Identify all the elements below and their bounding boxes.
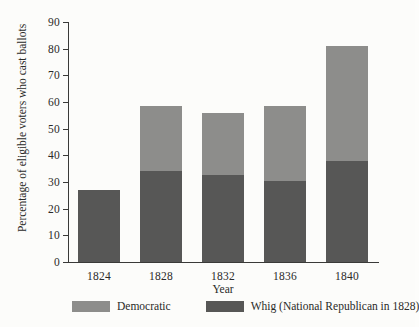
x-axis-title: Year [212,283,233,295]
bar-group[interactable] [78,22,120,262]
y-tick-mark [63,182,68,183]
y-axis-title: Percentage of eligible voters who cast b… [16,3,28,253]
legend-swatch [206,301,244,312]
y-tick-label: 70 [48,69,60,81]
bar-segment-whig[interactable] [326,161,368,262]
bar-segment-democratic[interactable] [140,106,182,171]
y-tick-mark [63,235,68,236]
y-tick-mark [63,155,68,156]
chart-legend: DemocraticWhig (National Republican in 1… [72,300,419,312]
y-tick-label: 40 [48,149,60,161]
x-axis-line [68,262,379,263]
legend-swatch [72,301,110,312]
x-tick-label: 1832 [211,270,235,282]
y-tick-label: 20 [48,203,60,215]
y-tick-label: 80 [48,43,60,55]
y-tick: 40 [68,155,69,156]
x-tick-label: 1840 [335,270,359,282]
x-tick-label: 1836 [273,270,297,282]
y-tick: 50 [68,129,69,130]
legend-item[interactable]: Democratic [72,300,171,312]
plot-area: 0102030405060708090 [68,22,378,262]
y-tick-mark [63,49,68,50]
y-tick-mark [63,102,68,103]
y-tick: 70 [68,75,69,76]
bar-segment-whig[interactable] [78,190,120,262]
bar-segment-whig[interactable] [202,175,244,262]
y-tick: 90 [68,22,69,23]
bar-group[interactable] [140,22,182,262]
bar-group[interactable] [264,22,306,262]
y-tick-mark [63,22,68,23]
bar-segment-whig[interactable] [140,171,182,262]
y-tick: 80 [68,49,69,50]
bar-group[interactable] [202,22,244,262]
y-tick-label: 30 [48,176,60,188]
y-tick-mark [63,262,68,263]
y-tick-label: 0 [54,256,60,268]
y-tick-label: 90 [48,16,60,28]
bar-group[interactable] [326,22,368,262]
y-tick: 30 [68,182,69,183]
legend-item[interactable]: Whig (National Republican in 1828) [206,300,419,312]
y-tick: 20 [68,209,69,210]
legend-label: Democratic [117,300,171,312]
y-tick-mark [63,75,68,76]
y-tick: 0 [68,262,69,263]
y-tick-label: 10 [48,229,60,241]
bar-segment-whig[interactable] [264,181,306,262]
y-tick-label: 60 [48,96,60,108]
y-tick-mark [63,209,68,210]
bar-segment-democratic[interactable] [326,46,368,161]
bar-segment-democratic[interactable] [264,106,306,181]
bar-segment-democratic[interactable] [202,113,244,176]
y-tick-mark [63,129,68,130]
legend-label: Whig (National Republican in 1828) [251,300,419,312]
y-tick: 60 [68,102,69,103]
x-tick-label: 1824 [87,270,111,282]
y-tick: 10 [68,235,69,236]
y-tick-label: 50 [48,123,60,135]
x-tick-label: 1828 [149,270,173,282]
